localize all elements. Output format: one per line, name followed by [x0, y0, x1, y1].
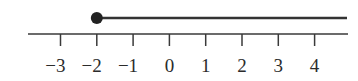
- tick-label: 1: [201, 55, 211, 76]
- number-line-diagram: −3−2−101234: [0, 0, 358, 81]
- tick-label: −2: [82, 55, 102, 76]
- tick-label: 0: [165, 55, 175, 76]
- tick-label: 2: [237, 55, 247, 76]
- tick-labels: −3−2−101234: [45, 55, 320, 76]
- closed-endpoint-dot: [91, 12, 103, 24]
- tick-label: 4: [310, 55, 320, 76]
- tick-label: −3: [45, 55, 65, 76]
- tick-marks: [61, 34, 315, 46]
- tick-label: 3: [274, 55, 284, 76]
- tick-label: −1: [118, 55, 138, 76]
